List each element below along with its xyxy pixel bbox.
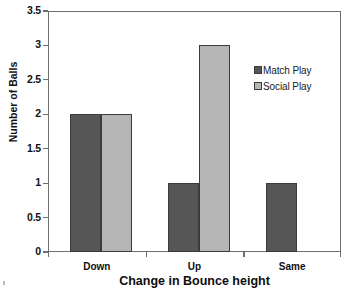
bar-up-match-play: [168, 183, 199, 252]
x-axis-title: Change in Bounce height: [48, 274, 341, 288]
bars-layer: [48, 11, 341, 252]
x-tick-mark: [146, 252, 147, 257]
scan-artifact: [3, 281, 5, 285]
legend-item-match-play: Match Play: [254, 63, 311, 77]
x-category-label-same: Same: [252, 261, 332, 272]
bar-down-social-play: [101, 114, 132, 252]
x-category-label-down: Down: [57, 261, 137, 272]
bar-same-match-play: [266, 183, 297, 252]
bar-up-social-play: [199, 45, 230, 252]
legend: Match Play Social Play: [254, 63, 311, 95]
legend-swatch-icon: [254, 82, 262, 90]
legend-label: Match Play: [263, 65, 311, 76]
x-axis: Down Up Same Change in Bounce height: [48, 252, 341, 290]
y-tick-label: 1.5: [27, 142, 41, 154]
y-tick-label: 2: [35, 107, 41, 119]
bar-down-match-play: [70, 114, 101, 252]
y-tick-label: 2.5: [27, 73, 41, 85]
legend-item-social-play: Social Play: [254, 79, 311, 93]
legend-label: Social Play: [263, 81, 311, 92]
y-tick-label: 3: [35, 38, 41, 50]
x-category-label-up: Up: [155, 261, 235, 272]
x-tick-mark: [340, 252, 341, 257]
y-tick-label: 0.5: [27, 211, 41, 223]
legend-swatch-icon: [254, 66, 262, 74]
bar-chart: 0 0.5 1 1.5 2 2.5 3 3.5 Number: [0, 0, 351, 290]
y-tick-label: 3.5: [27, 4, 41, 16]
x-tick-mark: [243, 252, 244, 257]
x-tick-mark: [48, 252, 49, 257]
y-tick-label: 0: [35, 245, 41, 257]
y-axis: 0 0.5 1 1.5 2 2.5 3 3.5 Number: [0, 0, 48, 290]
y-axis-title: Number of Balls: [7, 42, 19, 162]
y-tick-label: 1: [35, 176, 41, 188]
